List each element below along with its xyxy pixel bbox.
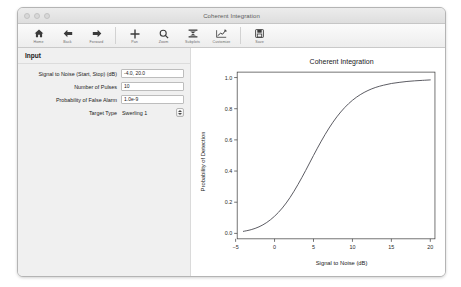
home-icon	[34, 28, 44, 39]
label-probability-of-false-alarm: Probability of False Alarm	[56, 97, 121, 103]
svg-text:0.2: 0.2	[225, 199, 233, 205]
toolbar-label-pan: Pan	[131, 40, 138, 44]
number-of-pulses-field[interactable]: 10	[121, 82, 184, 91]
panel-header: Input	[18, 48, 190, 63]
svg-text:0.8: 0.8	[225, 106, 233, 112]
form-row-probability-of-false-alarm: Probability of False Alarm 1.0e-9	[22, 95, 184, 104]
window-titlebar[interactable]: Coherent Integration	[18, 8, 445, 24]
forward-arrow-icon	[92, 28, 102, 39]
plot-area[interactable]: Coherent Integration −5051015200.00.20.4…	[191, 48, 445, 276]
toolbar-button-zoom[interactable]: Zoom	[149, 24, 178, 47]
input-panel: Input Signal to Noise (Start, Stop) (dB)…	[18, 48, 191, 276]
toolbar-label-forward: Forward	[90, 40, 104, 44]
application-window: Coherent Integration Home Back	[17, 7, 446, 277]
y-axis-label: Probability of Detection	[200, 132, 206, 192]
minimize-button[interactable]	[34, 13, 40, 19]
close-button[interactable]	[24, 13, 30, 19]
zoom-button[interactable]	[44, 13, 50, 19]
window-title: Coherent Integration	[18, 13, 445, 19]
label-number-of-pulses: Number of Pulses	[74, 84, 121, 90]
window-controls	[24, 13, 50, 19]
toolbar-group-navigation: Home Back Forward	[24, 24, 111, 47]
zoom-icon	[159, 28, 169, 39]
toolbar-label-zoom: Zoom	[159, 40, 169, 44]
input-form: Signal to Noise (Start, Stop) (dB) -4.0,…	[18, 64, 190, 121]
toolbar-button-save[interactable]: Save	[245, 24, 274, 47]
svg-text:0.0: 0.0	[225, 230, 233, 236]
toolbar-separator-1	[115, 27, 116, 44]
toolbar-label-save: Save	[255, 40, 264, 44]
stepper-icon[interactable]	[176, 108, 184, 117]
toolbar-button-customize[interactable]: Customize	[207, 24, 236, 47]
label-target-type: Target Type	[89, 110, 121, 116]
svg-text:0: 0	[273, 244, 276, 250]
chevron-down-icon	[178, 113, 182, 115]
svg-text:10: 10	[349, 244, 355, 250]
form-row-signal-to-noise: Signal to Noise (Start, Stop) (dB) -4.0,…	[22, 69, 184, 78]
svg-text:5: 5	[312, 244, 315, 250]
toolbar-button-subplots[interactable]: Subplots	[178, 24, 207, 47]
svg-text:15: 15	[388, 244, 394, 250]
coherent-integration-chart: Coherent Integration −5051015200.00.20.4…	[191, 48, 445, 276]
svg-text:0.6: 0.6	[225, 137, 233, 143]
customize-icon	[216, 28, 227, 39]
toolbar-label-home: Home	[34, 40, 44, 44]
chevron-up-icon	[178, 110, 182, 112]
toolbar-group-file: Save	[245, 24, 274, 47]
form-row-number-of-pulses: Number of Pulses 10	[22, 82, 184, 91]
svg-text:−5: −5	[233, 244, 239, 250]
toolbar: Home Back Forward	[18, 24, 445, 48]
svg-text:0.4: 0.4	[225, 168, 233, 174]
toolbar-button-back[interactable]: Back	[53, 24, 82, 47]
toolbar-label-subplots: Subplots	[185, 40, 200, 44]
signal-to-noise-field[interactable]: -4.0, 20.0	[121, 69, 184, 78]
svg-text:1.0: 1.0	[225, 75, 233, 81]
label-signal-to-noise: Signal to Noise (Start, Stop) (dB)	[39, 71, 122, 77]
toolbar-separator-2	[240, 27, 241, 44]
screenshot-root: Coherent Integration Home Back	[0, 0, 461, 287]
detection-curve	[243, 80, 430, 231]
x-axis-label: Signal to Noise (dB)	[316, 260, 368, 266]
probability-of-false-alarm-field[interactable]: 1.0e-9	[121, 95, 184, 104]
form-row-target-type: Target Type Swerling 1	[22, 108, 184, 117]
toolbar-button-forward[interactable]: Forward	[82, 24, 111, 47]
chart-axes: −5051015200.00.20.40.60.81.0	[225, 72, 435, 250]
svg-text:20: 20	[427, 244, 433, 250]
chart-title: Coherent Integration	[310, 58, 374, 66]
target-type-value: Swerling 1	[121, 110, 147, 116]
toolbar-label-customize: Customize	[213, 40, 231, 44]
pan-icon	[130, 28, 140, 39]
subplots-icon	[188, 28, 198, 39]
save-icon	[255, 28, 264, 39]
target-type-select[interactable]: Swerling 1	[121, 108, 184, 118]
window-body: Input Signal to Noise (Start, Stop) (dB)…	[18, 48, 445, 276]
toolbar-group-tools: Pan Zoom Subplots	[120, 24, 236, 47]
toolbar-button-pan[interactable]: Pan	[120, 24, 149, 47]
toolbar-label-back: Back	[63, 40, 71, 44]
back-arrow-icon	[63, 28, 73, 39]
toolbar-button-home[interactable]: Home	[24, 24, 53, 47]
